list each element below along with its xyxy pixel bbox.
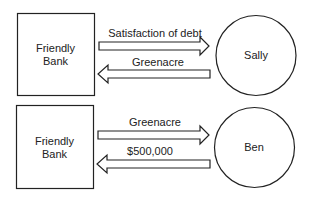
bank-label-line1: Friendly — [16, 135, 93, 148]
bank-label-2: Friendly Bank — [16, 135, 93, 161]
arrow-label-greenacre: Greenacre — [108, 56, 208, 69]
arrow-label-greenacre: Greenacre — [100, 116, 210, 129]
bank-label-1: Friendly Bank — [17, 42, 94, 68]
arrow-label-satisfaction: Satisfaction of debt — [100, 27, 210, 40]
ben-label: Ben — [214, 141, 294, 154]
bank-label-line1: Friendly — [17, 42, 94, 55]
bank-label-line2: Bank — [16, 148, 93, 161]
sally-label: Sally — [216, 49, 296, 62]
arrow-label-amount: $500,000 — [100, 145, 200, 158]
bank-label-line2: Bank — [17, 55, 94, 68]
